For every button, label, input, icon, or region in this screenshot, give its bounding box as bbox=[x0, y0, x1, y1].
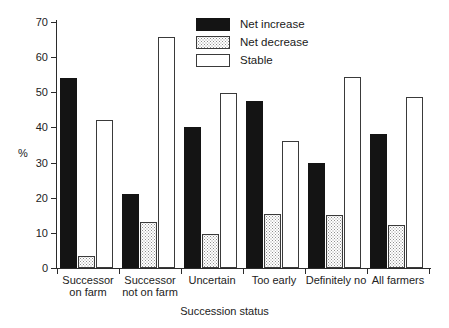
legend-label: Net decrease bbox=[240, 34, 308, 51]
legend-label: Net increase bbox=[240, 16, 305, 33]
y-axis-tick bbox=[51, 268, 56, 269]
y-axis-tick-label: 50 bbox=[0, 87, 48, 98]
y-axis-tick-label: 0 bbox=[0, 263, 48, 274]
y-axis-tick-label: 20 bbox=[0, 193, 48, 204]
y-axis-tick bbox=[51, 198, 56, 199]
bar-net-increase bbox=[370, 134, 387, 268]
legend-label: Stable bbox=[240, 52, 273, 69]
y-axis-tick-label: 60 bbox=[0, 52, 48, 63]
bar-stable bbox=[282, 141, 299, 268]
bar-net-decrease bbox=[264, 214, 281, 268]
bar-net-decrease bbox=[326, 215, 343, 268]
bar-net-increase bbox=[308, 163, 325, 268]
bar-stable bbox=[96, 120, 113, 268]
y-axis-tick bbox=[51, 22, 56, 23]
y-axis-tick-label: 40 bbox=[0, 122, 48, 133]
bar-stable bbox=[344, 77, 361, 268]
bar-net-decrease bbox=[388, 225, 405, 268]
bar-net-decrease bbox=[140, 222, 157, 268]
bar-net-increase bbox=[184, 127, 201, 268]
y-axis-tick bbox=[51, 233, 56, 234]
stippled-grey-swatch-icon bbox=[196, 36, 230, 49]
x-axis-title: Succession status bbox=[0, 306, 449, 317]
open-white-swatch-icon bbox=[196, 54, 230, 67]
bar-stable bbox=[158, 37, 175, 268]
bar-net-decrease bbox=[202, 234, 219, 268]
bar-net-increase bbox=[60, 78, 77, 268]
y-axis-tick-label: 30 bbox=[0, 158, 48, 169]
y-axis-tick bbox=[51, 57, 56, 58]
y-axis-tick bbox=[51, 127, 56, 128]
bar-stable bbox=[406, 97, 423, 268]
bar-net-increase bbox=[122, 194, 139, 268]
solid-black-swatch-icon bbox=[196, 18, 230, 31]
bar-chart-figure: % Succession status 010203040506070 Succ… bbox=[0, 0, 449, 328]
bar-net-increase bbox=[246, 101, 263, 268]
x-axis-category-label: All farmers bbox=[361, 274, 435, 286]
y-axis-tick-label: 10 bbox=[0, 228, 48, 239]
bar-net-decrease bbox=[78, 256, 95, 268]
bar-stable bbox=[220, 93, 237, 268]
y-axis-tick-label: 70 bbox=[0, 17, 48, 28]
y-axis-tick bbox=[51, 163, 56, 164]
y-axis-tick bbox=[51, 92, 56, 93]
